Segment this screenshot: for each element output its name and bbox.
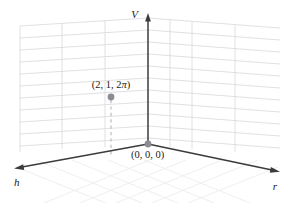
coordinate-axes-figure: V h r (2, 1, 2π) (0, 0, 0): [0, 0, 294, 203]
r-axis-label: r: [273, 180, 278, 192]
plotted-point-label-suffix: ): [127, 79, 131, 91]
plotted-point-label: (2, 1, 2π): [92, 79, 131, 91]
figure-canvas: V h r (2, 1, 2π) (0, 0, 0): [0, 0, 294, 203]
h-axis-label: h: [14, 176, 20, 188]
plotted-point-marker: [108, 94, 115, 101]
origin-point-label: (0, 0, 0): [131, 149, 165, 161]
origin-point-marker: [145, 141, 152, 148]
plotted-point-label-prefix: (2, 1, 2: [92, 79, 122, 91]
